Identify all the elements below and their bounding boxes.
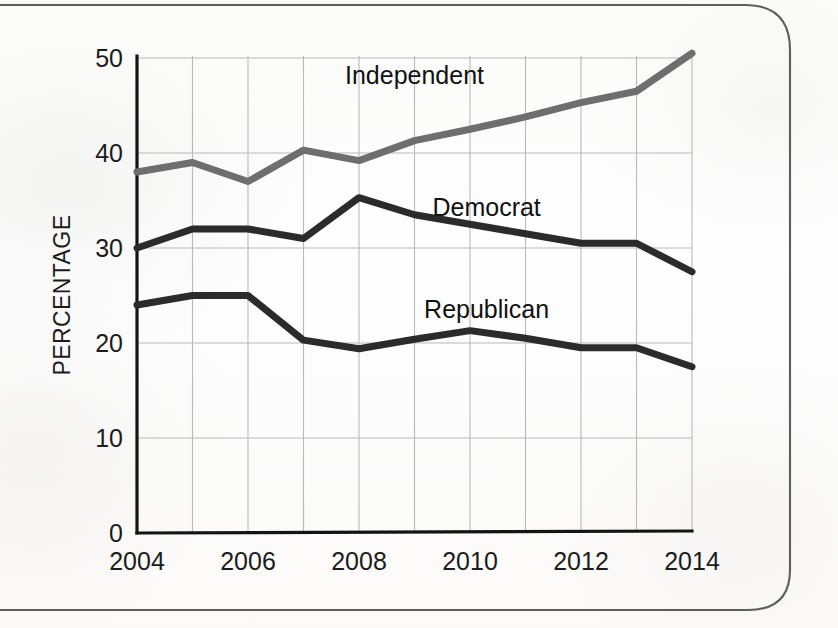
x-axis-line bbox=[137, 531, 692, 533]
x-axis-tick-label: 2014 bbox=[664, 547, 720, 575]
line-chart: 01020304050 200420062008201020122014 PER… bbox=[0, 0, 838, 628]
y-axis-tick-labels: 01020304050 bbox=[95, 44, 123, 547]
chart-series-labels: IndependentDemocratRepublican bbox=[345, 61, 549, 324]
y-axis-title: PERCENTAGE bbox=[49, 215, 75, 376]
series-label-democrat: Democrat bbox=[432, 193, 540, 221]
x-axis-tick-label: 2006 bbox=[220, 547, 276, 575]
y-axis-tick-label: 20 bbox=[95, 329, 123, 357]
x-axis-tick-label: 2012 bbox=[553, 547, 609, 575]
x-axis-tick-label: 2010 bbox=[442, 547, 498, 575]
series-label-independent: Independent bbox=[345, 61, 484, 89]
document-page: 01020304050 200420062008201020122014 PER… bbox=[0, 0, 838, 628]
x-axis-tick-label: 2008 bbox=[331, 547, 387, 575]
series-label-republican: Republican bbox=[424, 295, 549, 323]
y-axis-tick-label: 30 bbox=[95, 234, 123, 262]
x-axis-tick-labels: 200420062008201020122014 bbox=[109, 547, 720, 575]
y-axis-tick-label: 50 bbox=[95, 44, 123, 72]
y-axis-tick-label: 0 bbox=[109, 519, 123, 547]
y-axis-tick-label: 40 bbox=[95, 139, 123, 167]
x-axis-tick-label: 2004 bbox=[109, 547, 165, 575]
y-axis-tick-label: 10 bbox=[95, 424, 123, 452]
